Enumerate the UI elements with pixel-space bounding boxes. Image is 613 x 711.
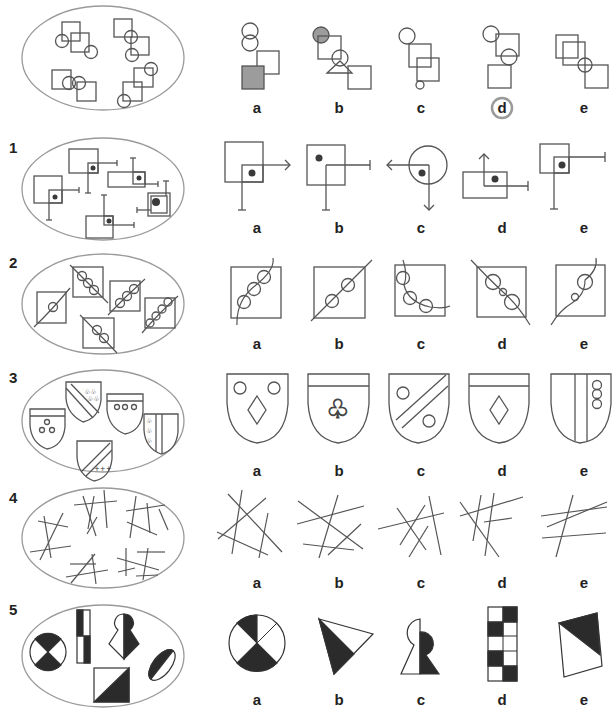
row-number: 2 <box>9 254 17 271</box>
option-3-d[interactable]: d <box>469 374 529 479</box>
option-label: a <box>253 219 262 236</box>
option-5-a[interactable]: a <box>229 615 285 708</box>
example-set-ellipse <box>22 6 184 110</box>
option-label: d <box>497 99 506 116</box>
option-5-b[interactable]: b <box>319 619 373 708</box>
option-label: b <box>334 691 343 708</box>
option-1-a[interactable]: a <box>225 142 290 236</box>
option-2-a[interactable]: a <box>231 258 281 352</box>
row-1: 1 a <box>9 138 605 240</box>
svg-text:♧: ♧ <box>146 437 152 445</box>
row-2: 2 a b c <box>9 254 605 354</box>
option-2-c[interactable]: c <box>395 260 450 352</box>
option-3-e[interactable]: e <box>551 374 611 479</box>
option-label: e <box>580 335 588 352</box>
puzzle-sheet: a b c d e <box>0 0 613 711</box>
example-figures <box>30 490 168 584</box>
option-label: a <box>253 462 262 479</box>
option-label: b <box>334 99 343 116</box>
option-4-b[interactable]: b <box>297 495 364 591</box>
option-label: e <box>580 219 588 236</box>
option-label: b <box>334 574 343 591</box>
option-label: a <box>253 335 262 352</box>
option-label: d <box>497 219 506 236</box>
option-1-e[interactable]: e <box>540 144 605 236</box>
option-5-c[interactable]: c <box>401 619 439 708</box>
svg-text:+++: +++ <box>94 465 112 473</box>
option-label: e <box>580 99 588 116</box>
row-number: 3 <box>9 369 17 386</box>
option-4-c[interactable]: c <box>378 496 444 591</box>
option-1-c[interactable]: c <box>387 146 447 236</box>
option-label: d <box>497 462 506 479</box>
option-label: b <box>334 462 343 479</box>
option-label: b <box>334 335 343 352</box>
option-label: a <box>253 574 262 591</box>
example-set-ellipse <box>22 488 184 588</box>
option-4-d[interactable]: d <box>460 493 523 591</box>
option-label: c <box>417 574 425 591</box>
svg-text:♧: ♧ <box>146 427 152 435</box>
option-2-e[interactable]: e <box>551 258 605 352</box>
option-1-b[interactable]: b <box>307 145 370 236</box>
option-label: c <box>417 219 425 236</box>
row-number: 5 <box>9 601 17 618</box>
option-0-a[interactable]: a <box>242 23 279 116</box>
option-label: b <box>334 219 343 236</box>
option-label: d <box>497 335 506 352</box>
option-label: e <box>580 574 588 591</box>
svg-text:♧: ♧ <box>326 394 349 424</box>
option-label: e <box>580 462 588 479</box>
option-5-e[interactable]: e <box>559 613 602 708</box>
option-2-d[interactable]: d <box>471 260 530 352</box>
example-figures <box>52 19 158 108</box>
option-3-c[interactable]: c <box>389 374 449 479</box>
option-label: a <box>253 691 262 708</box>
option-1-d[interactable]: d <box>463 154 528 236</box>
row-number: 1 <box>9 139 17 156</box>
option-label: d <box>497 691 506 708</box>
option-0-c[interactable]: c <box>399 28 439 116</box>
option-5-d[interactable]: d <box>488 607 517 708</box>
option-0-e[interactable]: e <box>556 35 608 116</box>
option-label: c <box>417 335 425 352</box>
example-figures <box>34 149 170 238</box>
option-3-a[interactable]: a <box>227 374 288 479</box>
option-label: c <box>417 99 425 116</box>
option-label: e <box>580 691 588 708</box>
row-4: 4 a b <box>9 488 607 591</box>
row-5: 5 <box>9 601 602 708</box>
svg-text:♧: ♧ <box>146 417 152 425</box>
option-4-e[interactable]: e <box>541 495 607 591</box>
example-figures: ♧♧ ♧♧ ♧ ♧ ♧ +++ <box>30 382 178 481</box>
option-label: a <box>253 99 262 116</box>
option-0-d[interactable]: d <box>483 26 519 118</box>
option-label: d <box>497 574 506 591</box>
row-0: a b c d e <box>22 6 608 118</box>
option-label: c <box>417 691 425 708</box>
option-3-b[interactable]: ♧ b <box>308 374 369 479</box>
example-set-ellipse <box>22 370 184 472</box>
svg-text:♧♧: ♧♧ <box>87 395 100 403</box>
example-set-ellipse <box>22 138 184 240</box>
option-0-b[interactable]: b <box>313 27 371 116</box>
example-figures <box>34 265 178 353</box>
option-2-b[interactable]: b <box>311 260 372 352</box>
option-label: c <box>417 462 425 479</box>
example-figures <box>30 610 180 702</box>
row-number: 4 <box>9 489 18 506</box>
row-3: 3 ♧♧ ♧♧ ♧ ♧ ♧ +++ <box>9 369 611 481</box>
option-4-a[interactable]: a <box>217 490 282 591</box>
